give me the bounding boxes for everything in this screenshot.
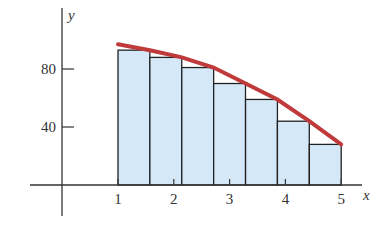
bar [277, 121, 309, 185]
bar [118, 50, 150, 185]
bar [309, 144, 341, 185]
y-ticks: 4080 [41, 61, 74, 135]
x-axis-label: x [362, 187, 370, 203]
riemann-sum-chart: 12345 4080 x y [0, 0, 379, 230]
x-tick-label: 4 [282, 191, 290, 207]
bars [118, 50, 341, 185]
y-axis-label: y [66, 7, 75, 23]
x-tick-label: 1 [114, 191, 122, 207]
bar [150, 57, 182, 185]
bar [182, 68, 214, 185]
x-tick-label: 2 [170, 191, 178, 207]
bar [246, 99, 278, 185]
x-tick-label: 3 [226, 191, 234, 207]
bar [214, 84, 246, 186]
x-tick-label: 5 [337, 191, 345, 207]
y-tick-label: 40 [41, 119, 56, 135]
y-tick-label: 80 [41, 61, 56, 77]
